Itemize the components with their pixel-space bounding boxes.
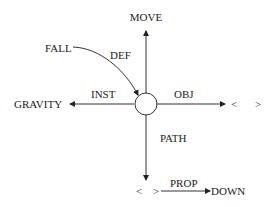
node-fall: FALL xyxy=(45,42,72,54)
label-prop: PROP xyxy=(170,177,198,189)
label-path: PATH xyxy=(160,132,187,144)
bottom-slot-open: < xyxy=(136,185,142,197)
label-obj: OBJ xyxy=(174,88,194,100)
label-inst: INST xyxy=(91,88,116,100)
bottom-slot-close: > xyxy=(153,185,159,197)
node-gravity: GRAVITY xyxy=(14,98,62,110)
center-node xyxy=(135,93,157,115)
node-move: MOVE xyxy=(130,11,163,23)
right-slot-open: < xyxy=(231,98,237,110)
conceptual-dependency-diagram: MOVE FALL DEF GRAVITY INST OBJ < > PATH … xyxy=(0,0,269,207)
node-down: DOWN xyxy=(211,185,245,197)
right-slot-close: > xyxy=(255,98,261,110)
label-def: DEF xyxy=(110,49,131,61)
